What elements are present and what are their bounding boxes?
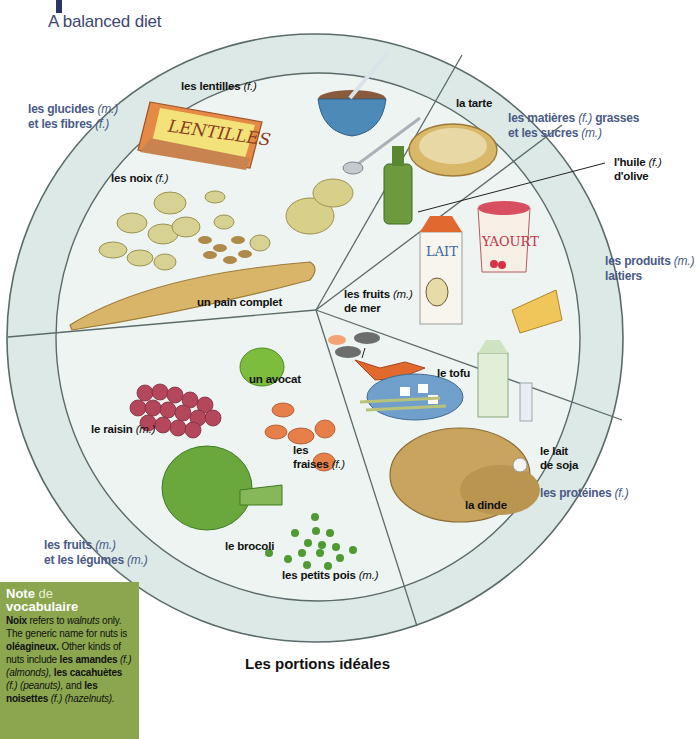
- food-label-fraises: les fraises (f.): [293, 443, 345, 471]
- note-title: Note de vocabulaire: [6, 587, 135, 613]
- milk-carton-illustration: LAIT: [420, 216, 462, 324]
- food-label-brocoli: le brocoli: [225, 539, 274, 553]
- food-label-tofu: le tofu: [437, 366, 470, 380]
- note-body: Noix refers to walnuts only. The generic…: [6, 614, 135, 705]
- food-label-noix: les noix (f.): [111, 171, 168, 185]
- svg-text:LAIT: LAIT: [426, 244, 458, 259]
- food-label-avocat: un avocat: [249, 372, 301, 386]
- food-label-huile-olive: l'huile (f.) d'olive: [614, 155, 662, 183]
- food-label-fruits-de-mer: les fruits (m.) de mer: [344, 287, 413, 315]
- diagram-caption: Les portions idéales: [245, 655, 390, 672]
- plate-inner-circle: [56, 73, 580, 601]
- food-label-tarte: la tarte: [456, 96, 492, 110]
- category-glucides-fibres: les glucides (m.) et les fibres (f.): [28, 102, 118, 132]
- food-label-lait-soja: le lait de soja: [540, 444, 578, 472]
- svg-text:YAOURT: YAOURT: [481, 234, 539, 249]
- category-proteines: les protéines (f.): [540, 486, 628, 501]
- category-matieres-grasses-sucres: les matières (f.) grasses et les sucres …: [508, 111, 639, 141]
- food-label-pain-complet: un pain complet: [197, 295, 282, 309]
- tart-illustration: [409, 124, 497, 176]
- food-label-dinde: la dinde: [465, 498, 507, 512]
- category-fruits-legumes: les fruits (m.) et les légumes (m.): [44, 538, 148, 568]
- food-label-lentilles: les lentilles (f.): [181, 79, 257, 93]
- food-label-raisin: le raisin (m.): [91, 422, 155, 436]
- food-label-petits-pois: les petits pois (m.): [282, 568, 378, 582]
- category-produits-laitiers: les produits (m.) laitiers: [605, 254, 694, 284]
- vocabulary-note: Note de vocabulaire Noix refers to walnu…: [0, 582, 139, 739]
